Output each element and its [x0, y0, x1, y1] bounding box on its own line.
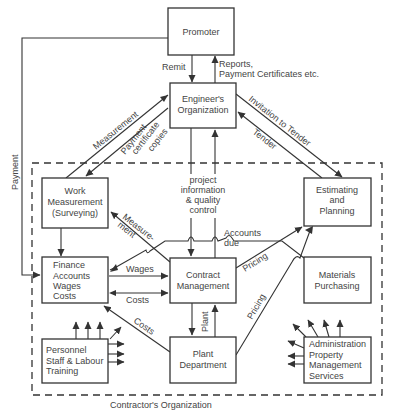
- payment-edge: Payment: [10, 38, 168, 275]
- remit-label: Remit: [162, 62, 186, 72]
- measurement2-edge: [111, 212, 170, 262]
- wages-label: Wages: [126, 264, 154, 274]
- project-info-label: project information & quality control: [178, 174, 230, 218]
- svg-text:Accounts: Accounts: [53, 271, 91, 281]
- plant-label: Plant: [200, 311, 210, 332]
- reports-label-1: Reports,: [219, 59, 253, 69]
- reports-label-2: Payment Certificates etc.: [219, 69, 319, 79]
- svg-text:Costs: Costs: [53, 291, 77, 301]
- svg-text:Plant: Plant: [193, 349, 214, 359]
- svg-text:Personnel: Personnel: [46, 345, 87, 355]
- svg-text:Department: Department: [179, 360, 227, 370]
- svg-text:due: due: [224, 238, 239, 248]
- svg-text:(Surveying): (Surveying): [52, 208, 98, 218]
- contractor-boundary-label: Contractor's Organization: [110, 400, 212, 410]
- engineer-box: Engineer's Organization: [170, 83, 236, 128]
- invitation-label: Invitation to Tender: [247, 94, 313, 149]
- svg-text:Wages: Wages: [53, 281, 81, 291]
- svg-text:& quality: & quality: [186, 195, 221, 205]
- svg-text:Services: Services: [309, 371, 344, 381]
- work-measurement-box: Work Measurement (Surveying): [42, 178, 108, 228]
- pricing2-edge: [236, 228, 311, 355]
- svg-text:Training: Training: [46, 366, 78, 376]
- svg-text:Property: Property: [309, 350, 344, 360]
- promoter-box: Promoter: [168, 8, 234, 55]
- svg-text:Materials: Materials: [319, 270, 356, 280]
- svg-text:Planning: Planning: [319, 206, 354, 216]
- plant-department-box: Plant Department: [170, 337, 236, 383]
- svg-text:Contract: Contract: [186, 270, 221, 280]
- svg-text:Organization: Organization: [177, 105, 228, 115]
- svg-text:Management: Management: [177, 281, 230, 291]
- svg-text:Purchasing: Purchasing: [314, 281, 359, 291]
- svg-text:Engineer's: Engineer's: [182, 94, 225, 104]
- materials-purchasing-box: Materials Purchasing: [304, 257, 371, 303]
- svg-text:control: control: [189, 205, 216, 215]
- svg-text:Finance: Finance: [53, 260, 85, 270]
- svg-text:Administration: Administration: [309, 339, 366, 349]
- organization-diagram: Contractor's Organization Payment Remit …: [0, 0, 396, 416]
- svg-text:Staff & Labour: Staff & Labour: [46, 356, 103, 366]
- costs2-edge: [104, 306, 170, 352]
- payment-label: Payment: [10, 154, 20, 190]
- svg-text:and: and: [329, 195, 344, 205]
- administration-box: Administration Property Management Servi…: [304, 337, 371, 383]
- tender-label: Tender: [251, 127, 279, 152]
- pricing-label-1: Pricing: [241, 251, 270, 274]
- svg-text:information: information: [181, 185, 226, 195]
- pricing-label-2: Pricing: [245, 292, 267, 321]
- svg-text:project: project: [189, 175, 217, 185]
- svg-text:Measurement: Measurement: [47, 197, 103, 207]
- personnel-box: Personnel Staff & Labour Training: [42, 339, 108, 383]
- svg-text:Work: Work: [65, 186, 86, 196]
- costs-label-1: Costs: [126, 295, 150, 305]
- estimating-box: Estimating and Planning: [304, 178, 371, 226]
- invitation-edge: [236, 94, 342, 177]
- svg-text:Accounts: Accounts: [224, 228, 262, 238]
- contract-management-box: Contract Management: [170, 258, 236, 303]
- svg-text:Promoter: Promoter: [182, 27, 219, 37]
- finance-box: Finance Accounts Wages Costs: [42, 257, 108, 303]
- svg-text:Management: Management: [309, 360, 362, 370]
- svg-text:Estimating: Estimating: [316, 185, 358, 195]
